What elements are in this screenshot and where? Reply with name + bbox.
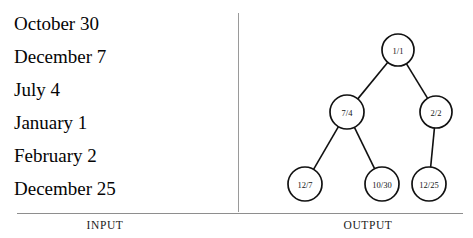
tree-edge: [406, 64, 427, 99]
tree-node-label: 12/7: [297, 180, 312, 190]
input-date-list: October 30 December 7 July 4 January 1 F…: [14, 7, 116, 205]
tree-node: 1/1: [382, 34, 414, 66]
list-item: February 2: [14, 139, 116, 172]
tree-node: 7/4: [330, 95, 364, 129]
output-panel: 1/17/42/212/710/3012/25: [239, 0, 473, 213]
list-item: December 25: [14, 172, 116, 205]
tree-edge: [431, 128, 435, 167]
tree-edge: [314, 127, 339, 170]
input-panel: October 30 December 7 July 4 January 1 F…: [0, 0, 238, 213]
list-item: July 4: [14, 73, 116, 106]
tree-node-label: 1/1: [393, 46, 404, 56]
tree-node-label: 10/30: [372, 180, 391, 190]
tree-node-label: 7/4: [342, 108, 354, 118]
tree-edge: [354, 127, 374, 168]
tree-edge: [358, 62, 388, 99]
tree-node: 2/2: [420, 96, 452, 128]
output-caption: OUTPUT: [308, 219, 428, 231]
bottom-rule: [17, 213, 463, 214]
tree-node-group: 1/17/42/212/710/3012/25: [288, 34, 452, 201]
input-output-figure: October 30 December 7 July 4 January 1 F…: [0, 0, 473, 238]
list-item: December 7: [14, 40, 116, 73]
tree-node: 12/25: [412, 167, 446, 201]
list-item: January 1: [14, 106, 116, 139]
list-item: October 30: [14, 7, 116, 40]
tree-node: 10/30: [365, 167, 399, 201]
input-caption: INPUT: [45, 219, 165, 231]
binary-tree-diagram: 1/17/42/212/710/3012/25: [239, 0, 473, 213]
tree-node-label: 12/25: [419, 180, 438, 190]
tree-node: 12/7: [288, 167, 322, 201]
tree-node-label: 2/2: [431, 108, 442, 118]
